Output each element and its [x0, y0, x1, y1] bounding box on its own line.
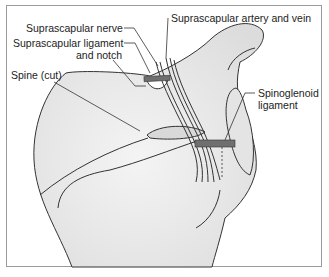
label-spine-cut: Spine (cut) [11, 69, 62, 81]
label-suprascapular-nerve: Suprascapular nerve [26, 22, 123, 34]
label-suprascapular-artery-vein: Suprascapular artery and vein [171, 12, 311, 24]
label-spinoglenoid-ligament: ligament [258, 99, 298, 111]
label-notch: and notch [76, 49, 122, 61]
spinoglenoid-ligament [195, 140, 235, 147]
label-suprascapular-ligament: Suprascapular ligament [13, 37, 123, 49]
label-spinoglenoid: Spinoglenoid [258, 87, 319, 99]
suprascapular-ligament [144, 75, 170, 81]
